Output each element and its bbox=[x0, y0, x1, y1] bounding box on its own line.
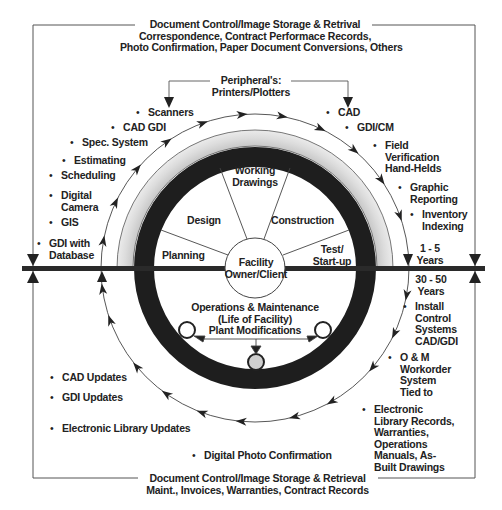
timeline-text: Years bbox=[408, 286, 454, 298]
arrowhead bbox=[110, 196, 122, 209]
arrowhead bbox=[159, 387, 173, 400]
timeline-short-label: 1 - 5 Years bbox=[410, 243, 450, 266]
bottom-header: Document Control/Image Storage & Retriev… bbox=[135, 473, 380, 496]
phase-text: Start-up bbox=[306, 256, 358, 268]
phase-construction: Construction bbox=[271, 215, 334, 227]
center-text: Facility bbox=[220, 257, 292, 269]
arrowhead bbox=[104, 314, 115, 327]
item-text: Install bbox=[415, 301, 458, 313]
mod-node-bottom bbox=[248, 354, 264, 370]
timeline-long-label: 30 - 50 Years bbox=[408, 274, 454, 297]
item-text: Tied to bbox=[400, 387, 451, 399]
arrowhead bbox=[195, 407, 208, 418]
item-text: Systems bbox=[415, 324, 458, 336]
timeline-text: Years bbox=[410, 255, 450, 267]
item-text: CAD/GDI bbox=[415, 336, 458, 348]
operations-text: Plant Modifications bbox=[185, 325, 325, 337]
item-text: O & M bbox=[400, 352, 451, 364]
phase-text: Construction bbox=[271, 214, 334, 226]
item-text: Digital Photo Confirmation bbox=[204, 449, 332, 461]
operations-label: Operations & Maintenance (Life of Facili… bbox=[185, 302, 325, 337]
bottom-item-digital-photo: Digital Photo Confirmation bbox=[204, 450, 332, 462]
arrowhead bbox=[276, 111, 288, 121]
right-item-inventory-indexing: Inventory Indexing bbox=[422, 209, 467, 232]
lower-right-item-install-control: Install Control Systems CAD/GDI bbox=[415, 301, 458, 347]
operations-text: Operations & Maintenance bbox=[185, 302, 325, 314]
peripherals-line2: Printers/Plotters bbox=[205, 87, 297, 99]
bottom-header-line2: Maint., Invoices, Warranties, Contract R… bbox=[135, 485, 380, 497]
phase-design: Design bbox=[187, 215, 221, 227]
item-text: Built Drawings bbox=[374, 462, 454, 474]
item-text: Hand-Helds bbox=[385, 163, 441, 175]
item-text: Spec. System bbox=[82, 136, 148, 148]
arrowhead bbox=[160, 135, 174, 148]
arrowhead bbox=[98, 283, 107, 295]
item-text: System bbox=[400, 375, 451, 387]
top-header-line1: Document Control/Image Storage & Retriva… bbox=[120, 19, 390, 31]
phase-text: Working bbox=[225, 165, 285, 177]
timeline-text: 30 - 50 bbox=[408, 274, 454, 286]
phase-test-startup: Test/ Start-up bbox=[306, 244, 358, 267]
lower-left-item-cad-updates: CAD Updates bbox=[62, 372, 127, 384]
right-item-graphic-reporting: Graphic Reporting bbox=[410, 182, 458, 205]
left-item-spec-system: Spec. System bbox=[82, 137, 148, 149]
phase-text: Planning bbox=[162, 249, 205, 261]
right-item-cad: CAD bbox=[338, 107, 360, 119]
item-text: GDI/CM bbox=[357, 121, 394, 133]
right-item-field-verification: Field Verification Hand-Helds bbox=[385, 140, 441, 175]
item-text: GIS bbox=[61, 216, 79, 228]
item-text: Indexing bbox=[422, 221, 467, 233]
peripherals-line1: Peripheral's: bbox=[205, 75, 297, 87]
lower-left-item-electronic-library-updates: Electronic Library Updates bbox=[62, 423, 190, 435]
arrowhead bbox=[196, 117, 209, 128]
item-text: Reporting bbox=[410, 194, 458, 206]
peripherals-label: Peripheral's: Printers/Plotters bbox=[205, 75, 297, 98]
left-item-scheduling: Scheduling bbox=[61, 170, 116, 182]
center-text: Owner/Client bbox=[220, 269, 292, 281]
arrowhead bbox=[325, 395, 339, 407]
item-text: GDI with bbox=[49, 238, 94, 250]
lower-right-item-om-workorder: O & M Workorder System Tied to bbox=[400, 352, 451, 398]
facility-owner-label: Facility Owner/Client bbox=[220, 257, 292, 280]
item-text: Manuals, As- bbox=[374, 450, 454, 462]
arrowhead bbox=[388, 327, 400, 340]
left-item-estimating: Estimating bbox=[74, 155, 126, 167]
left-item-cad-gdi: CAD GDI bbox=[123, 122, 166, 134]
left-item-gdi-database: GDI with Database bbox=[49, 238, 94, 261]
arrowhead bbox=[288, 412, 301, 423]
item-text: GDI Updates bbox=[62, 391, 123, 403]
item-text: Inventory bbox=[422, 209, 467, 221]
item-text: Scanners bbox=[148, 106, 194, 118]
top-header-line3: Photo Confirmation, Paper Document Conve… bbox=[120, 42, 390, 54]
phase-working-drawings: Working Drawings bbox=[225, 165, 285, 188]
arrowhead bbox=[98, 235, 108, 247]
item-text: Scheduling bbox=[61, 169, 116, 181]
arrowhead bbox=[375, 173, 388, 187]
item-text: Warranties, bbox=[374, 427, 454, 439]
top-header: Document Control/Image Storage & Retriva… bbox=[120, 19, 390, 54]
item-text: Camera bbox=[61, 202, 98, 214]
right-item-gdi-cm: GDI/CM bbox=[357, 122, 394, 134]
item-text: CAD Updates bbox=[62, 371, 127, 383]
phase-text: Design bbox=[187, 214, 221, 226]
arrowhead bbox=[314, 123, 327, 135]
item-text: CAD GDI bbox=[123, 121, 166, 133]
item-text: Electronic Library Updates bbox=[62, 422, 190, 434]
lower-right-item-electronic-library: Electronic Library Records, Warranties, … bbox=[374, 404, 454, 473]
bottom-header-line1: Document Control/Image Storage & Retriev… bbox=[135, 473, 380, 485]
arrowhead bbox=[394, 209, 405, 222]
item-text: Field bbox=[385, 140, 441, 152]
left-item-scanners: Scanners bbox=[148, 107, 194, 119]
item-text: Electronic bbox=[374, 404, 454, 416]
operations-connectors bbox=[194, 336, 318, 354]
left-item-digital-camera: Digital Camera bbox=[61, 190, 98, 213]
item-text: Graphic bbox=[410, 182, 458, 194]
item-text: Digital bbox=[61, 190, 98, 202]
lower-left-item-gdi-updates: GDI Updates bbox=[62, 392, 123, 404]
item-text: Estimating bbox=[74, 154, 126, 166]
left-item-gis: GIS bbox=[61, 217, 79, 229]
item-text: Database bbox=[49, 250, 94, 262]
phase-text: Drawings bbox=[225, 177, 285, 189]
item-text: CAD bbox=[338, 106, 360, 118]
timeline-text: 1 - 5 bbox=[410, 243, 450, 255]
